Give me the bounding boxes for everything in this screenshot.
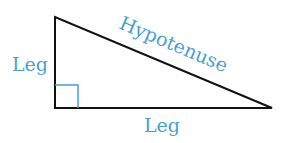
vertical-leg-label: Leg <box>12 53 48 75</box>
horizontal-leg-label: Leg <box>144 114 180 136</box>
right-triangle-diagram: Leg Leg Hypotenuse <box>0 0 291 143</box>
right-angle-marker <box>55 85 78 108</box>
